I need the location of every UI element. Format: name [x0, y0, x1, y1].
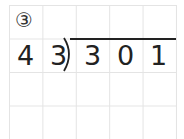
dividend-digit-ones: 1: [150, 42, 167, 69]
division-bracket-icon: [62, 36, 76, 73]
graph-paper-grid: [9, 5, 177, 139]
dividend-digit-tens: 0: [117, 42, 134, 69]
dividend-digit-hundreds: 3: [84, 42, 101, 69]
problem-number: ③: [15, 10, 33, 30]
divisor-tens-digit: 4: [17, 42, 34, 69]
